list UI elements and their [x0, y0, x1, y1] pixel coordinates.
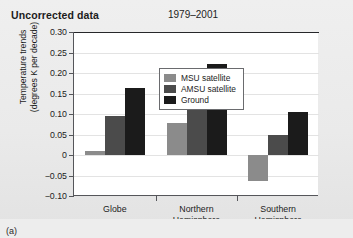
plot-area: 0.300.250.200.150.100.050−0.05−0.10 Glob…	[73, 32, 318, 196]
legend-label: MSU satellite	[181, 73, 230, 83]
y-tick-label: −0.05	[45, 171, 67, 181]
x-axis-group-label-line: Southern	[237, 204, 319, 215]
chart-title: Uncorrected data	[11, 9, 99, 21]
y-axis-title-line2: (degrees K per decade)	[29, 22, 41, 112]
bar	[85, 151, 105, 155]
x-axis-group-label-line: Globe	[74, 204, 156, 215]
legend-swatch-icon	[164, 74, 176, 82]
zero-baseline	[74, 32, 319, 33]
y-tick-label: 0.30	[50, 27, 67, 37]
figure-bottom-band	[0, 219, 353, 238]
y-tick-mark	[69, 53, 74, 54]
x-axis-separator	[237, 196, 238, 201]
y-tick-label: 0.10	[50, 109, 67, 119]
figure-caption: (a)	[6, 226, 17, 236]
y-tick-label: −0.10	[45, 191, 67, 201]
y-axis-title-line1: Temperature trends	[18, 30, 30, 105]
bar	[268, 135, 288, 155]
legend-swatch-icon	[164, 96, 176, 104]
y-tick-label: 0	[62, 150, 67, 160]
legend-label: Ground	[181, 95, 209, 105]
y-tick-mark	[69, 114, 74, 115]
y-tick-label: 0.25	[50, 48, 67, 58]
y-tick-mark	[69, 176, 74, 177]
bar	[125, 88, 145, 155]
chart-period: 1979–2001	[168, 9, 218, 20]
gridline	[74, 155, 319, 156]
y-tick-mark	[69, 155, 74, 156]
chart-header: Uncorrected data 1979–2001	[0, 9, 353, 25]
legend-swatch-icon	[164, 85, 176, 93]
bar	[105, 116, 125, 155]
y-tick-label: 0.05	[50, 130, 67, 140]
y-tick-label: 0.20	[50, 68, 67, 78]
legend-item: Ground	[164, 95, 236, 105]
legend-item: AMSU satellite	[164, 84, 236, 94]
x-axis-group-label: Globe	[74, 204, 156, 215]
legend-item: MSU satellite	[164, 73, 236, 83]
chart-legend: MSU satelliteAMSU satelliteGround	[159, 68, 244, 110]
legend-label: AMSU satellite	[181, 84, 236, 94]
gridline	[74, 196, 319, 197]
y-tick-mark	[69, 135, 74, 136]
bar	[248, 155, 268, 181]
x-axis-group-label-line: Northern	[156, 204, 238, 215]
y-tick-mark	[69, 73, 74, 74]
gridline	[74, 53, 319, 54]
x-axis-separator	[156, 196, 157, 201]
bar	[288, 112, 308, 155]
y-tick-mark	[69, 196, 74, 197]
figure-panel: Uncorrected data 1979–2001 Temperature t…	[0, 0, 353, 238]
y-tick-label: 0.15	[50, 89, 67, 99]
bar	[167, 123, 187, 155]
gridline	[74, 176, 319, 177]
y-tick-mark	[69, 94, 74, 95]
